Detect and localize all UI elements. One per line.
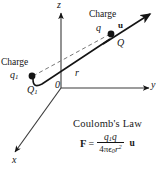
position-Q1-symbol: Q1 <box>27 85 38 96</box>
coulombs-law-figure: z y x 0 Charge q1 Q1 Charge q u Q r Coul… <box>0 0 163 171</box>
position-Q1-subscript: 1 <box>34 88 37 95</box>
fraction-numerator: q1q <box>102 132 119 142</box>
coulomb-fraction: q1q 4πϵ0r2 <box>97 132 123 155</box>
coulombs-law-formula-block: Coulomb's Law F = q1q 4πϵ0r2 u <box>52 118 163 155</box>
charge-q1-point <box>29 73 36 80</box>
separation-vector-r <box>33 39 110 86</box>
coulombs-law-equation: F = q1q 4πϵ0r2 u <box>52 132 163 155</box>
coulombs-law-title: Coulomb's Law <box>52 118 163 129</box>
y-axis-label: y <box>151 80 155 90</box>
z-axis-label: z <box>57 0 61 10</box>
charge-q-symbol: q <box>96 23 101 33</box>
fraction-denominator: 4πϵ0r2 <box>97 143 123 154</box>
distance-r-label: r <box>75 68 79 78</box>
charge-q-point <box>108 31 115 38</box>
charge-q1-symbol: q1 <box>10 70 18 81</box>
origin-label: 0 <box>55 80 60 90</box>
charge-q-caption: Charge <box>89 10 116 20</box>
x-axis-label: x <box>12 155 16 165</box>
charge-q1-caption: Charge <box>1 58 28 68</box>
charge-q1-subscript: 1 <box>15 73 18 80</box>
denominator-exponent: 2 <box>118 143 121 150</box>
position-Q-symbol: Q <box>117 38 124 48</box>
numerator-q: q <box>112 132 117 142</box>
force-symbol: F <box>80 138 86 149</box>
equals-sign: = <box>89 138 95 149</box>
dashed-reference-line <box>33 33 112 76</box>
unit-vector-u-label: u <box>118 21 123 30</box>
equation-unit-vector: u <box>130 138 135 148</box>
